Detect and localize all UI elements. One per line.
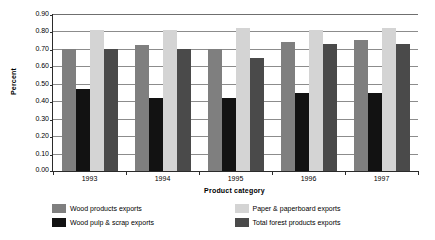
x-axis-title: Product category — [52, 187, 417, 194]
legend-label: Wood products exports — [70, 205, 142, 212]
legend-swatch-icon — [235, 218, 249, 227]
legend-item: Wood products exports — [52, 201, 235, 215]
bar — [382, 28, 396, 171]
bar — [104, 49, 118, 171]
y-tick-label: 0.50 — [35, 80, 49, 87]
x-tick-label: 1993 — [53, 175, 126, 182]
bar — [250, 58, 264, 171]
bar — [368, 93, 382, 172]
bar — [236, 28, 250, 171]
bar — [309, 30, 323, 171]
bar-chart: Percent 0.900.800.700.600.500.400.300.20… — [0, 0, 435, 240]
y-tick-label: 0.40 — [35, 97, 49, 104]
x-tick-mark — [418, 171, 419, 175]
y-tick-label: 0.20 — [35, 132, 49, 139]
y-tick-label: 0.00 — [35, 166, 49, 173]
bar-group-1995 — [199, 14, 272, 171]
y-tick-label: 0.70 — [35, 45, 49, 52]
x-tick-label: 1994 — [126, 175, 199, 182]
y-tick-label: 0.80 — [35, 27, 49, 34]
y-tick-label: 0.90 — [35, 10, 49, 17]
bar — [208, 49, 222, 171]
y-tick-label: 0.60 — [35, 62, 49, 69]
bar — [149, 98, 163, 171]
bar — [177, 49, 191, 171]
bar — [90, 30, 104, 171]
bar-group-1997 — [345, 14, 418, 171]
legend-swatch-icon — [235, 204, 249, 213]
bar — [163, 30, 177, 171]
legend-item: Wood pulp & scrap exports — [52, 215, 235, 229]
bar-group-1993 — [53, 14, 126, 171]
x-tick-label: 1996 — [272, 175, 345, 182]
legend-label: Wood pulp & scrap exports — [70, 219, 154, 226]
legend-swatch-icon — [52, 218, 66, 227]
legend-swatch-icon — [52, 204, 66, 213]
bars-layer — [53, 14, 418, 171]
bar — [281, 42, 295, 171]
y-tick-label: 0.30 — [35, 115, 49, 122]
bar — [222, 98, 236, 171]
y-tick-label: 0.10 — [35, 150, 49, 157]
bar — [323, 44, 337, 171]
legend-item: Total forest products exports — [235, 215, 418, 229]
y-axis-title: Percent — [10, 52, 17, 112]
legend-label: Paper & paperboard exports — [253, 205, 341, 212]
x-tick-label: 1995 — [199, 175, 272, 182]
legend-label: Total forest products exports — [253, 219, 341, 226]
chart-legend: Wood products exportsPaper & paperboard … — [52, 201, 417, 229]
x-tick-labels: 19931994199519961997 — [53, 175, 418, 182]
plot-area: 0.900.800.700.600.500.400.300.200.100.00… — [52, 14, 418, 172]
legend-item: Paper & paperboard exports — [235, 201, 418, 215]
bar — [396, 44, 410, 171]
bar — [295, 93, 309, 172]
bar-group-1994 — [126, 14, 199, 171]
bar — [354, 40, 368, 171]
bar-group-1996 — [272, 14, 345, 171]
bar — [135, 45, 149, 171]
x-tick-label: 1997 — [345, 175, 418, 182]
bar — [62, 49, 76, 171]
bar — [76, 89, 90, 171]
